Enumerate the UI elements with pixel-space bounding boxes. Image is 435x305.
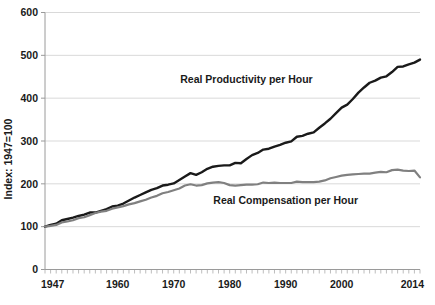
y-tick-label-0: 0 xyxy=(32,263,38,275)
x-tick-label-1990: 1990 xyxy=(274,278,298,290)
y-tick-label-100: 100 xyxy=(20,220,38,232)
y-axis-title: Index: 1947=100 xyxy=(2,118,14,199)
x-tick-label-2014: 2014 xyxy=(401,278,425,290)
chart-container: 0100200300400500600 19471960197019801990… xyxy=(0,0,435,305)
y-axis-tick-labels: 0100200300400500600 xyxy=(20,6,45,275)
y-tick-label-600: 600 xyxy=(20,6,38,18)
x-tick-label-1980: 1980 xyxy=(218,278,242,290)
y-axis-title-text: Index: 1947=100 xyxy=(2,118,14,199)
y-tick-label-300: 300 xyxy=(20,135,38,147)
y-tick-label-500: 500 xyxy=(20,49,38,61)
line-chart: 0100200300400500600 19471960197019801990… xyxy=(0,0,435,305)
x-tick-label-2000: 2000 xyxy=(330,278,354,290)
x-tick-label-1960: 1960 xyxy=(106,278,130,290)
y-tick-label-200: 200 xyxy=(20,178,38,190)
series-label-compensation: Real Compensation per Hour xyxy=(213,194,358,206)
y-tick-label-400: 400 xyxy=(20,92,38,104)
x-tick-label-1970: 1970 xyxy=(162,278,186,290)
series-inline-labels: Real Productivity per HourReal Compensat… xyxy=(180,73,358,206)
x-axis-tick-labels: 1947196019701980199020002014 xyxy=(41,278,424,290)
series-label-productivity: Real Productivity per Hour xyxy=(180,73,312,85)
x-tick-label-1947: 1947 xyxy=(41,278,65,290)
x-axis-minor-ticks xyxy=(45,270,420,274)
